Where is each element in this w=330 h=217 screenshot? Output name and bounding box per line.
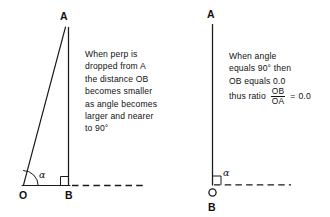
- right-alpha-label: α: [223, 168, 229, 178]
- left-right-angle-marker: [61, 177, 69, 186]
- right-right-angle-marker: [213, 176, 222, 185]
- ratio-lead-text: thus ratio: [229, 91, 266, 101]
- left-caption-line-4: becomes smaller: [85, 85, 157, 97]
- left-label-A: A: [60, 11, 68, 22]
- geometry-figure: A O B α When perp is dropped from A the …: [0, 0, 330, 217]
- ob-over-oa-fraction: OB OA: [271, 87, 285, 106]
- left-caption-line-6: larger and nearer: [85, 110, 157, 122]
- left-caption-text: When perp is dropped from A the distance…: [85, 48, 157, 135]
- right-point-O-marker: [209, 189, 216, 196]
- right-caption-text: When angle equals 90° then OB equals 0.0: [229, 50, 291, 87]
- fraction-numerator: OB: [271, 87, 285, 96]
- ratio-value: 0.0: [298, 91, 310, 101]
- left-label-O: O: [19, 190, 27, 201]
- diagram-line-work: [0, 0, 330, 217]
- right-caption-line-2: equals 90° then: [229, 62, 291, 74]
- left-hypotenuse-OA: [24, 27, 66, 185]
- left-caption-line-1: When perp is: [85, 48, 157, 60]
- left-caption-line-2: dropped from A: [85, 60, 157, 72]
- left-alpha-label: α: [39, 170, 45, 180]
- left-caption-line-3: the distance OB: [85, 73, 157, 85]
- ratio-equals-sign: =: [290, 91, 295, 101]
- right-caption-line-1: When angle: [229, 50, 291, 62]
- fraction-denominator: OA: [271, 96, 285, 106]
- left-caption-line-5: as angle becomes: [85, 98, 157, 110]
- left-label-B: B: [65, 190, 73, 201]
- right-label-B: B: [208, 202, 216, 213]
- left-caption-line-7: to 90°: [85, 122, 157, 134]
- right-label-A: A: [207, 9, 215, 20]
- ratio-expression: thus ratio OB OA = 0.0: [229, 87, 311, 106]
